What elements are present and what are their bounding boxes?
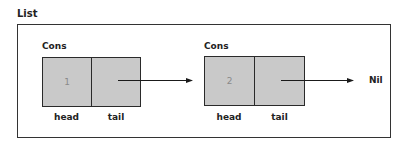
node-2-tail-cell: [254, 57, 304, 105]
node-1-cons-cell: 1: [42, 57, 141, 107]
node-2-head-cell: 2: [205, 57, 254, 105]
diagram-title: List: [17, 8, 38, 20]
node-1-head-label: head: [42, 112, 91, 123]
node-1-tail-label: tail: [91, 112, 141, 123]
nil-terminal: Nil: [369, 75, 383, 86]
node-2-type-label: Cons: [204, 41, 229, 52]
node-2-cons-cell: 2: [204, 56, 305, 106]
node-1-head-cell: 1: [43, 58, 91, 106]
node-1-tail-cell: [91, 58, 140, 106]
node-2-head-value: 2: [227, 76, 233, 86]
node-1-type-label: Cons: [42, 41, 67, 52]
node-2-head-label: head: [204, 112, 254, 123]
node-2-tail-label: tail: [254, 112, 305, 123]
node-1-head-value: 1: [64, 77, 70, 87]
